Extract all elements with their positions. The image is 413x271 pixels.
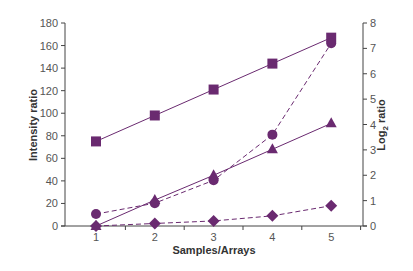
- y2-title-rest: ratio: [375, 99, 387, 126]
- triangle-marker: [326, 117, 337, 127]
- y-tick-label: 160: [40, 40, 58, 52]
- square-marker: [267, 59, 277, 69]
- y-tick-label: 0: [52, 220, 58, 232]
- y-tick-label: 60: [46, 152, 58, 164]
- diamond-marker: [149, 217, 161, 229]
- x-tick-label: 4: [269, 231, 275, 243]
- series-group: [90, 33, 337, 232]
- y2-tick-label: 2: [370, 169, 376, 181]
- square-marker: [91, 136, 101, 146]
- circle-marker: [209, 175, 219, 185]
- diamond-marker: [208, 215, 220, 227]
- axes: 02040608010012014016018001234567812345: [40, 17, 376, 243]
- y-tick-label: 20: [46, 197, 58, 209]
- x-tick-label: 2: [152, 231, 158, 243]
- circle-marker: [326, 38, 336, 48]
- y-axis-title: Intensity ratio: [27, 89, 39, 161]
- square-marker: [150, 110, 160, 120]
- x-tick-label: 5: [328, 231, 334, 243]
- y2-tick-label: 1: [370, 195, 376, 207]
- y2-tick-label: 7: [370, 42, 376, 54]
- x-tick-label: 3: [211, 231, 217, 243]
- y-tick-label: 180: [40, 17, 58, 29]
- y-tick-label: 140: [40, 62, 58, 74]
- square-marker: [209, 85, 219, 95]
- diamond-marker: [266, 210, 278, 222]
- series-line: [96, 43, 331, 214]
- circle-marker: [91, 209, 101, 219]
- y2-tick-label: 8: [370, 17, 376, 29]
- y2-tick-label: 0: [370, 220, 376, 232]
- circle-marker: [150, 198, 160, 208]
- y-tick-label: 80: [46, 130, 58, 142]
- triangle-marker: [267, 143, 278, 153]
- chart: 02040608010012014016018001234567812345 S…: [0, 0, 413, 271]
- y2-tick-label: 6: [370, 68, 376, 80]
- x-tick-label: 1: [93, 231, 99, 243]
- circle-marker: [267, 130, 277, 140]
- x-axis-title: Samples/Arrays: [172, 244, 255, 256]
- y-tick-label: 40: [46, 175, 58, 187]
- y-tick-label: 120: [40, 85, 58, 97]
- diamond-marker: [90, 220, 102, 232]
- y2-axis-title: Log2 ratio: [375, 99, 390, 151]
- y2-title-main: Log: [375, 131, 387, 151]
- diamond-marker: [325, 200, 337, 212]
- y-tick-label: 100: [40, 107, 58, 119]
